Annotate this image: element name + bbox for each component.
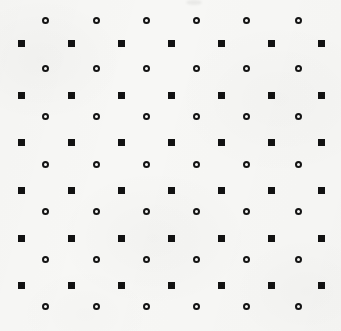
circle-marker	[243, 65, 250, 72]
square-marker	[168, 282, 175, 289]
square-marker	[168, 92, 175, 99]
square-marker	[268, 139, 275, 146]
circle-marker	[143, 17, 150, 24]
square-marker	[18, 282, 25, 289]
square-marker	[218, 235, 225, 242]
square-marker	[268, 92, 275, 99]
square-marker	[118, 40, 125, 47]
circle-marker	[295, 208, 302, 215]
square-marker	[118, 92, 125, 99]
circle-marker	[295, 256, 302, 263]
square-marker	[168, 139, 175, 146]
square-marker	[118, 235, 125, 242]
circle-marker	[243, 161, 250, 168]
circle-marker	[295, 65, 302, 72]
circle-marker	[295, 17, 302, 24]
circle-marker	[143, 65, 150, 72]
square-marker	[68, 235, 75, 242]
square-marker	[18, 187, 25, 194]
square-marker	[318, 187, 325, 194]
square-marker	[318, 92, 325, 99]
circle-marker	[93, 256, 100, 263]
circle-marker	[193, 161, 200, 168]
circle-marker	[143, 208, 150, 215]
circle-marker	[42, 303, 49, 310]
circle-marker	[295, 161, 302, 168]
circle-marker	[42, 113, 49, 120]
circle-marker	[193, 303, 200, 310]
circle-marker	[42, 65, 49, 72]
circle-marker	[243, 113, 250, 120]
square-marker	[118, 139, 125, 146]
square-marker	[218, 187, 225, 194]
circle-marker	[295, 113, 302, 120]
circle-marker	[243, 208, 250, 215]
circle-marker	[42, 17, 49, 24]
lattice-figure	[0, 0, 341, 331]
square-marker	[68, 187, 75, 194]
circle-marker	[93, 303, 100, 310]
circle-marker	[243, 303, 250, 310]
circle-marker	[243, 17, 250, 24]
circle-marker	[42, 208, 49, 215]
square-marker	[268, 282, 275, 289]
circle-marker	[143, 256, 150, 263]
square-marker	[68, 92, 75, 99]
circle-marker	[295, 303, 302, 310]
square-marker	[18, 92, 25, 99]
circle-marker	[93, 65, 100, 72]
circle-marker	[93, 113, 100, 120]
square-marker	[218, 139, 225, 146]
square-marker	[18, 235, 25, 242]
square-marker	[318, 282, 325, 289]
square-marker	[218, 40, 225, 47]
circle-marker	[193, 65, 200, 72]
square-marker	[68, 40, 75, 47]
circle-marker	[243, 256, 250, 263]
square-marker	[218, 92, 225, 99]
square-marker	[168, 40, 175, 47]
square-marker	[318, 235, 325, 242]
square-marker	[168, 235, 175, 242]
circle-marker	[143, 113, 150, 120]
square-marker	[68, 282, 75, 289]
circle-marker	[42, 256, 49, 263]
square-marker	[168, 187, 175, 194]
circle-marker	[143, 161, 150, 168]
circle-marker	[193, 208, 200, 215]
circle-marker	[93, 17, 100, 24]
circle-marker	[193, 17, 200, 24]
square-marker	[318, 40, 325, 47]
square-marker	[68, 139, 75, 146]
square-marker	[118, 187, 125, 194]
square-marker	[268, 235, 275, 242]
circle-marker	[93, 161, 100, 168]
square-marker	[318, 139, 325, 146]
circle-marker	[93, 208, 100, 215]
square-marker	[18, 40, 25, 47]
scan-artifact	[186, 0, 202, 5]
square-marker	[268, 187, 275, 194]
circle-marker	[143, 303, 150, 310]
circle-marker	[42, 161, 49, 168]
circle-marker	[193, 256, 200, 263]
circle-marker	[193, 113, 200, 120]
square-marker	[268, 40, 275, 47]
square-marker	[218, 282, 225, 289]
square-marker	[118, 282, 125, 289]
square-marker	[18, 139, 25, 146]
